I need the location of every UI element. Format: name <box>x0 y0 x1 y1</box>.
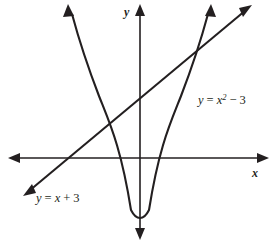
parabola-left-arrow-icon <box>63 4 74 17</box>
line-equation-label: y=x+3 <box>34 191 80 205</box>
y-axis <box>135 4 145 240</box>
line-label-equals: = <box>45 191 52 205</box>
parabola-label-equals: = <box>207 93 214 107</box>
parabola-right-arrow-icon <box>205 4 216 17</box>
x-axis-label: x <box>251 166 258 180</box>
x-axis-right-arrow-icon <box>257 153 269 163</box>
y-axis-bottom-arrow-icon <box>135 228 145 240</box>
parabola-label-lhs: y <box>196 93 204 107</box>
graph-figure: y x y=x2−3 y=x+3 <box>0 0 277 244</box>
line-label-plus: + <box>63 191 70 205</box>
line-label-constant: 3 <box>73 191 79 205</box>
parabola-label-minus: − <box>229 93 236 107</box>
line-label-base: x <box>54 191 61 205</box>
x-axis-left-arrow-icon <box>8 153 20 163</box>
parabola-label-constant: 3 <box>240 93 246 107</box>
coordinate-plane-svg: y x y=x2−3 y=x+3 <box>0 0 277 244</box>
x-axis <box>8 153 269 163</box>
y-axis-top-arrow-icon <box>135 4 145 16</box>
y-axis-label: y <box>122 5 130 19</box>
parabola-equation-label: y=x2−3 <box>196 92 246 107</box>
line-label-lhs: y <box>34 191 42 205</box>
parabola-label-exponent: 2 <box>222 92 227 102</box>
